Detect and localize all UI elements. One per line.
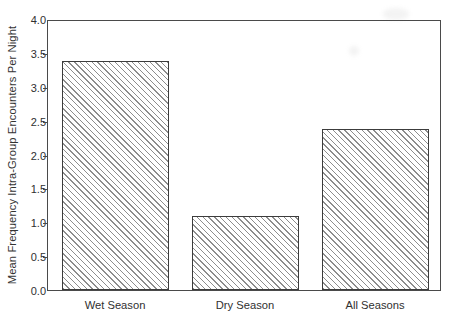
y-tick-label: 0.0 [22,285,46,297]
bar-dry-season [192,216,299,290]
x-tick-label-dry-season: Dry Season [216,299,274,311]
x-tick-label-all-seasons: All Seasons [345,299,404,311]
bar-all-seasons [322,129,429,290]
y-axis-tick-labels: 0.0 0.5 1.0 1.5 2.0 2.5 3.0 3.5 4.0 [22,0,46,324]
scan-artifact [383,8,409,20]
bar-wet-season [62,61,169,290]
bar-chart-figure: Mean Frequency Intra-Group Encounters Pe… [0,0,452,324]
plot-area [47,20,441,291]
x-tick-label-wet-season: Wet Season [85,299,146,311]
y-tick-label: 4.0 [22,14,46,26]
y-axis-title: Mean Frequency Intra-Group Encounters Pe… [0,0,24,310]
y-axis-title-text: Mean Frequency Intra-Group Encounters Pe… [6,26,18,284]
